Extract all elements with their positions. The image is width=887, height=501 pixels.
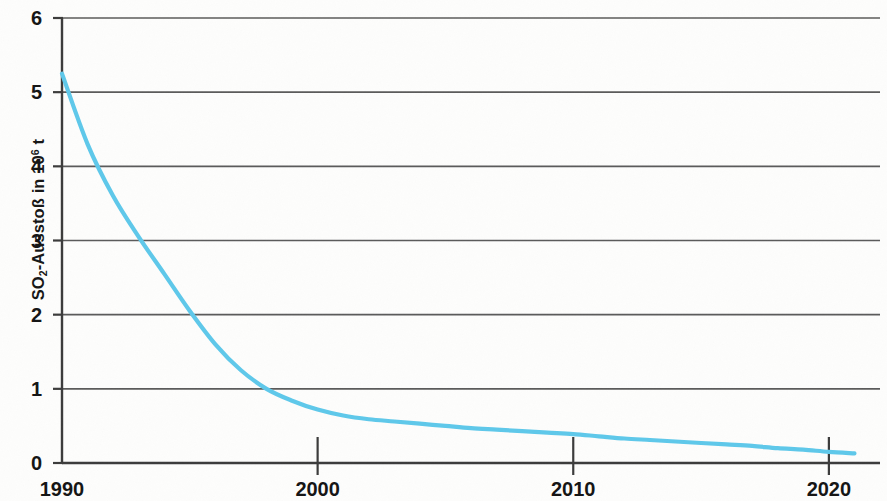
y-tick-label-4: 4 — [16, 156, 42, 176]
plot-area — [0, 0, 887, 501]
data-series-line — [62, 74, 854, 454]
so2-emissions-line-chart: SO2-Ausstoß in 106 t 0123456 19902000201… — [0, 0, 887, 501]
y-tick-label-5: 5 — [16, 82, 42, 102]
y-tick-label-2: 2 — [16, 305, 42, 325]
x-tick-label-2000: 2000 — [273, 479, 363, 499]
y-tick-label-3: 3 — [16, 231, 42, 251]
y-tick-label-6: 6 — [16, 8, 42, 28]
y-tick-label-0: 0 — [16, 453, 42, 473]
x-tick-label-2010: 2010 — [528, 479, 618, 499]
x-tick-label-1990: 1990 — [17, 479, 107, 499]
grid-lines — [62, 18, 880, 389]
x-tick-label-2020: 2020 — [784, 479, 874, 499]
y-tick-label-1: 1 — [16, 379, 42, 399]
tick-marks — [53, 18, 829, 475]
